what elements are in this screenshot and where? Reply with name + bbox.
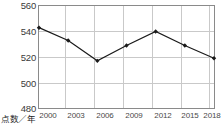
x-tick-label: 2018 (203, 111, 220, 120)
y-tick-label: 540 (2, 27, 36, 36)
plot-area (38, 5, 215, 109)
x-tick-label: 2000 (39, 111, 56, 120)
gridline-vertical (123, 6, 124, 108)
x-tick-label: 2003 (67, 111, 84, 120)
y-tick-label: 500 (2, 79, 36, 88)
y-axis-tick-labels: 560 540 520 500 480 (0, 0, 36, 127)
gridline-vertical (65, 6, 66, 108)
y-tick-label: 560 (2, 1, 36, 10)
gridline-vertical (181, 6, 182, 108)
y-tick-label: 520 (2, 53, 36, 62)
gridline-vertical (94, 6, 95, 108)
gridline-vertical (209, 6, 210, 108)
gridline-vertical (152, 6, 153, 108)
x-tick-label: 2009 (125, 111, 142, 120)
axis-corner-label: 点数／年 (1, 112, 35, 124)
x-tick-label: 2015 (181, 111, 198, 120)
line-chart: 560 540 520 500 480 2000 2003 2006 2009 … (0, 0, 222, 127)
x-tick-label: 2012 (154, 111, 171, 120)
x-tick-label: 2006 (96, 111, 113, 120)
